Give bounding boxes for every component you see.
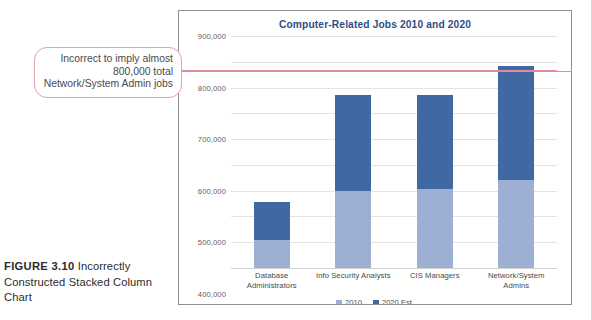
chart-legend: 20102020 Est.	[179, 298, 571, 305]
chart-title: Computer-Related Jobs 2010 and 2020	[179, 19, 571, 30]
figure-label: FIGURE 3.10	[4, 260, 74, 272]
callout-leader-line	[180, 71, 572, 72]
bar-segment-2010[interactable]	[417, 189, 453, 268]
callout-annotation: Incorrect to imply almost 800,000 total …	[34, 47, 182, 98]
legend-swatch-icon	[336, 300, 342, 306]
legend-item[interactable]: 2020 Est.	[373, 298, 414, 305]
bar-segment-2010[interactable]	[254, 240, 290, 268]
legend-swatch-icon	[373, 300, 379, 306]
legend-item[interactable]: 2010	[336, 298, 362, 305]
bar-segment-2020-est[interactable]	[417, 95, 453, 189]
y-axis-tick-label: 800,000	[198, 83, 226, 92]
stacked-bar[interactable]	[254, 202, 290, 268]
legend-label: 2010	[345, 298, 362, 305]
stacked-bar[interactable]	[335, 95, 371, 268]
y-axis-tick-label: 700,000	[198, 135, 226, 144]
bar-segment-2020-est[interactable]	[335, 95, 371, 190]
callout-text: Incorrect to imply almost 800,000 total …	[44, 53, 173, 89]
stacked-bar[interactable]	[498, 66, 534, 268]
x-axis-category-label: Network/System Admins	[476, 271, 558, 291]
x-axis-labels: Database AdministratorsInfo Security Ana…	[231, 271, 557, 291]
bar-segment-2020-est[interactable]	[498, 66, 534, 181]
x-axis-category-label: Info Security Analysts	[313, 271, 395, 291]
chart-container: Computer-Related Jobs 2010 and 2020 900,…	[178, 10, 572, 305]
y-axis-tick-label: 400,000	[198, 289, 226, 298]
y-axis-tick-label: 500,000	[198, 238, 226, 247]
stacked-bar[interactable]	[417, 95, 453, 268]
y-axis-tick-label: 900,000	[198, 32, 226, 41]
bar-segment-2010[interactable]	[335, 191, 371, 268]
y-axis-tick-label: 600,000	[198, 186, 226, 195]
bar-segment-2010[interactable]	[498, 180, 534, 268]
figure-caption: FIGURE 3.10 Incorrectly Constructed Stac…	[4, 259, 169, 306]
x-axis-category-label: CIS Managers	[394, 271, 476, 291]
bar-segment-2020-est[interactable]	[254, 202, 290, 239]
x-axis-category-label: Database Administrators	[231, 271, 313, 291]
gridline: -	[231, 268, 557, 269]
legend-label: 2020 Est.	[382, 298, 414, 305]
